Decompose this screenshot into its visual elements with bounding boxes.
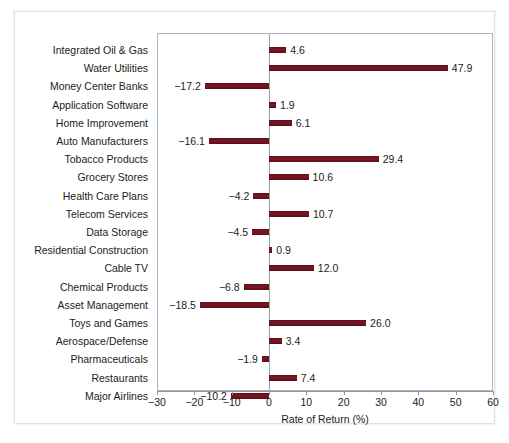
bar-row: Aerospace/Defense3.4 <box>15 332 509 350</box>
bar-row: Cable TV12.0 <box>15 259 509 277</box>
figure-card: Integrated Oil & Gas4.6Water Utilities47… <box>14 11 495 424</box>
value-label: −6.8 <box>15 278 240 296</box>
bar-row: Telecom Services10.7 <box>15 205 509 223</box>
bar-row: Data Storage−4.5 <box>15 223 509 241</box>
value-label: 3.4 <box>286 332 301 350</box>
x-axis-line <box>157 391 493 392</box>
bar[interactable] <box>269 211 309 217</box>
bar[interactable] <box>269 65 448 71</box>
bar-row: Integrated Oil & Gas4.6 <box>15 41 509 59</box>
bar-row: Chemical Products−6.8 <box>15 278 509 296</box>
bar[interactable] <box>269 247 272 253</box>
category-label: Restaurants <box>15 369 148 387</box>
value-label: −4.5 <box>15 223 248 241</box>
x-tick <box>232 391 233 395</box>
x-tick <box>493 391 494 395</box>
value-label: 7.4 <box>301 369 316 387</box>
bar[interactable] <box>269 338 282 344</box>
category-label: Telecom Services <box>15 205 148 223</box>
bar[interactable] <box>269 265 314 271</box>
category-label: Application Software <box>15 96 148 114</box>
value-label: 26.0 <box>370 314 390 332</box>
bar[interactable] <box>269 102 276 108</box>
value-label: 0.9 <box>276 241 291 259</box>
value-label: −4.2 <box>15 187 249 205</box>
bar[interactable] <box>269 320 366 326</box>
x-tick-label: −20 <box>174 396 214 408</box>
x-tick <box>381 391 382 395</box>
x-tick-label: 0 <box>249 396 289 408</box>
bar[interactable] <box>253 193 269 199</box>
bar[interactable] <box>269 156 379 162</box>
bar[interactable] <box>200 302 269 308</box>
value-label: 1.9 <box>280 96 295 114</box>
value-label: −16.1 <box>15 132 205 150</box>
bar-row: Application Software1.9 <box>15 96 509 114</box>
category-label: Cable TV <box>15 259 148 277</box>
bar-row: Tobacco Products29.4 <box>15 150 509 168</box>
category-label: Grocery Stores <box>15 168 148 186</box>
category-label: Aerospace/Defense <box>15 332 148 350</box>
value-label: −17.2 <box>15 77 201 95</box>
value-label: −1.9 <box>15 350 258 368</box>
bar-row: Water Utilities47.9 <box>15 59 509 77</box>
x-tick-label: 20 <box>324 396 364 408</box>
value-label: 29.4 <box>383 150 403 168</box>
value-label: 6.1 <box>296 114 311 132</box>
x-tick-label: 60 <box>473 396 509 408</box>
value-label: 10.7 <box>313 205 333 223</box>
bar-row: Grocery Stores10.6 <box>15 168 509 186</box>
x-tick-label: −10 <box>212 396 252 408</box>
value-label: 47.9 <box>452 59 472 77</box>
x-tick <box>418 391 419 395</box>
x-tick-label: −30 <box>137 396 177 408</box>
x-tick-label: 30 <box>361 396 401 408</box>
bar-row: Restaurants7.4 <box>15 369 509 387</box>
x-tick <box>344 391 345 395</box>
bar[interactable] <box>269 120 292 126</box>
category-label: Water Utilities <box>15 59 148 77</box>
category-label: Integrated Oil & Gas <box>15 41 148 59</box>
value-label: 10.6 <box>313 168 333 186</box>
x-tick <box>194 391 195 395</box>
category-label: Residential Construction <box>15 241 148 259</box>
bar[interactable] <box>269 47 286 53</box>
bar[interactable] <box>244 284 269 290</box>
x-tick-label: 40 <box>398 396 438 408</box>
bar-row: Residential Construction0.9 <box>15 241 509 259</box>
x-tick <box>269 391 270 395</box>
bar-row: Toys and Games26.0 <box>15 314 509 332</box>
bar[interactable] <box>205 83 269 89</box>
x-tick-label: 10 <box>286 396 326 408</box>
category-label: Home Improvement <box>15 114 148 132</box>
value-label: 4.6 <box>290 41 305 59</box>
bar-row: Health Care Plans−4.2 <box>15 187 509 205</box>
value-label: 12.0 <box>318 259 338 277</box>
bar-row: Auto Manufacturers−16.1 <box>15 132 509 150</box>
bar-row: Pharmaceuticals−1.9 <box>15 350 509 368</box>
x-axis-title: Rate of Return (%) <box>157 413 493 425</box>
bar-row: Money Center Banks−17.2 <box>15 77 509 95</box>
bar[interactable] <box>269 174 309 180</box>
bar[interactable] <box>252 229 269 235</box>
bar[interactable] <box>262 356 269 362</box>
value-label: −18.5 <box>15 296 196 314</box>
category-label: Toys and Games <box>15 314 148 332</box>
bar[interactable] <box>209 138 269 144</box>
category-label: Tobacco Products <box>15 150 148 168</box>
x-tick-label: 50 <box>436 396 476 408</box>
bar-row: Asset Management−18.5 <box>15 296 509 314</box>
x-tick <box>456 391 457 395</box>
x-tick <box>157 391 158 395</box>
bar[interactable] <box>269 375 297 381</box>
bar-row: Home Improvement6.1 <box>15 114 509 132</box>
x-tick <box>306 391 307 395</box>
